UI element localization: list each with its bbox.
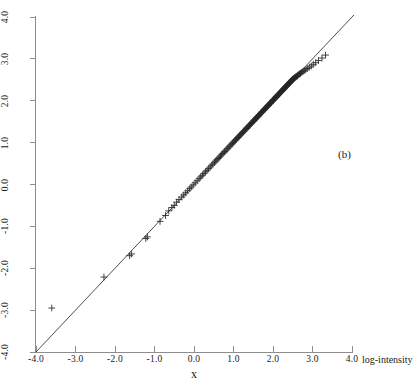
qq-plot-figure: -4.0-3.0-2.0-1.00.01.02.03.04.0 -4.0-3.0… (0, 0, 418, 389)
x-tick-label: -2.0 (107, 354, 123, 364)
data-point-marker (322, 52, 329, 59)
y-tick-label: -1.0 (0, 218, 10, 234)
data-point-marker (142, 235, 149, 242)
x-tick-label: 1.0 (227, 354, 239, 364)
x-tick-label: 3.0 (306, 354, 318, 364)
y-tick-label: 0.0 (0, 178, 10, 190)
plot-area (36, 17, 352, 352)
data-point-marker (144, 233, 151, 240)
y-axis-title: inverse distribution function (0, 122, 1, 264)
scatter-plot-svg (36, 17, 352, 352)
y-tick-label: 1.0 (0, 136, 10, 148)
x-tick-label: -1.0 (147, 354, 163, 364)
x-axis-title: x (191, 367, 197, 382)
data-point-markers (48, 52, 329, 312)
y-tick-label: -2.0 (0, 260, 10, 276)
x-tick-label: -4.0 (28, 354, 44, 364)
x-tick-label: 0.0 (188, 354, 200, 364)
y-tick-label: 2.0 (0, 95, 10, 107)
y-tick-label: -3.0 (0, 302, 10, 318)
data-point-marker (101, 274, 108, 281)
y-tick-label: 4.0 (0, 11, 10, 23)
x-tick-label: 4.0 (346, 354, 358, 364)
data-point-marker (157, 218, 164, 225)
y-tick-label: 3.0 (0, 53, 10, 65)
x-tick-label: -3.0 (68, 354, 84, 364)
x-axis-unit-label: log-intensity (362, 354, 413, 365)
x-tick-label: 2.0 (267, 354, 279, 364)
data-point-marker (48, 305, 55, 312)
x-axis-spine (35, 352, 353, 353)
data-point-marker (162, 212, 169, 219)
y-tick-label: -4.0 (0, 344, 10, 360)
